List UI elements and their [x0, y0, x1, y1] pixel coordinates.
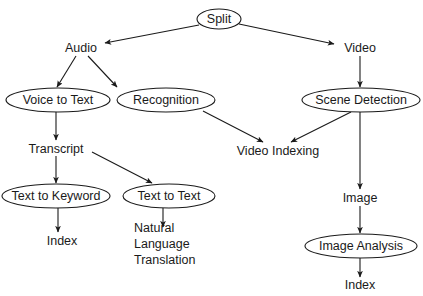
node-label-audio: Audio	[65, 41, 97, 55]
node-audio[interactable]: Audio	[65, 41, 97, 55]
node-recognition[interactable]: Recognition	[117, 88, 215, 112]
node-index_left[interactable]: Index	[47, 234, 78, 248]
node-video_indexing[interactable]: Video Indexing	[237, 144, 320, 158]
node-label-natural_language_translation-line-2: Translation	[134, 253, 195, 267]
node-label-split: Split	[207, 12, 232, 26]
node-label-scene_detection: Scene Detection	[315, 93, 407, 107]
edge-split-audio	[105, 25, 199, 43]
pipeline-diagram: SplitAudioVideoVoice to TextRecognitionS…	[0, 0, 423, 296]
node-text_to_text[interactable]: Text to Text	[123, 184, 215, 208]
edge-audio-voice-to-text	[57, 56, 76, 87]
node-label-text_to_keyword: Text to Keyword	[12, 189, 101, 203]
node-label-transcript: Transcript	[28, 142, 84, 156]
node-scene_detection[interactable]: Scene Detection	[302, 88, 420, 112]
node-natural_language_translation[interactable]: NaturalLanguageTranslation	[134, 221, 195, 267]
node-label-natural_language_translation-line-1: Language	[134, 237, 190, 251]
node-index_right[interactable]: Index	[345, 278, 376, 292]
edge-split-video	[239, 24, 334, 44]
nodes-layer: SplitAudioVideoVoice to TextRecognitionS…	[2, 9, 420, 292]
node-video[interactable]: Video	[344, 41, 376, 55]
node-transcript[interactable]: Transcript	[28, 142, 84, 156]
edge-transcript-text-to-text	[92, 152, 152, 183]
edge-scene-detection-video-indexing	[291, 112, 351, 142]
node-image_analysis[interactable]: Image Analysis	[305, 234, 417, 258]
node-image[interactable]: Image	[343, 191, 378, 205]
node-voice_to_text[interactable]: Voice to Text	[6, 88, 110, 112]
edge-audio-recognition-branch	[88, 56, 117, 87]
node-label-video: Video	[344, 41, 376, 55]
node-label-natural_language_translation-line-0: Natural	[134, 221, 174, 235]
node-label-video_indexing: Video Indexing	[237, 144, 320, 158]
node-text_to_keyword[interactable]: Text to Keyword	[2, 184, 110, 208]
node-label-recognition: Recognition	[133, 93, 199, 107]
node-label-image_analysis: Image Analysis	[319, 239, 403, 253]
node-label-voice_to_text: Voice to Text	[23, 93, 94, 107]
node-split[interactable]: Split	[197, 9, 241, 29]
node-label-index_right: Index	[345, 278, 376, 292]
node-label-image: Image	[343, 191, 378, 205]
node-label-text_to_text: Text to Text	[138, 189, 202, 203]
edge-recognition-video-indexing	[203, 111, 263, 142]
node-label-index_left: Index	[47, 234, 78, 248]
